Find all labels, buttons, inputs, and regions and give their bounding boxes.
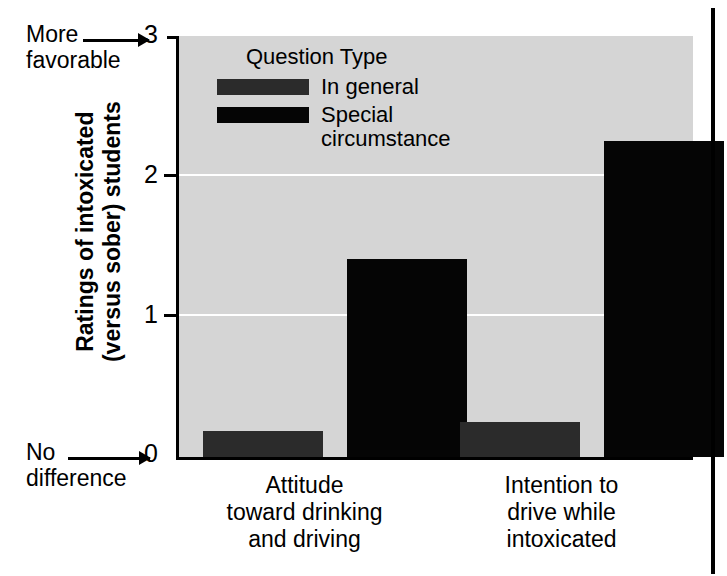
x-category-label-attitude: Attitude toward drinking and driving [176, 472, 433, 553]
y-tick-label-1: 1 [134, 302, 158, 327]
arrow-head [138, 33, 150, 47]
x-category-label-intention: Intention to drive while intoxicated [433, 472, 690, 553]
arrow-right-icon-bottom [68, 446, 150, 469]
y-tick-label-2: 2 [134, 162, 158, 187]
legend-label-special-circumstance: Special circumstance [321, 103, 471, 151]
y-axis-label: Ratings of intoxicated (versus sober) st… [72, 22, 125, 442]
x-axis-line [176, 457, 693, 460]
x-category-attitude-line-2: and driving [176, 526, 433, 553]
bar-attitude-in-general[interactable] [203, 431, 323, 457]
x-category-attitude-line-0: Attitude [176, 472, 433, 499]
legend-item-special-circumstance[interactable]: Special circumstance [217, 103, 477, 151]
legend-swatch-special-circumstance [217, 107, 309, 123]
bar-chart-figure: 3 2 1 0 Question Type In general Special… [0, 0, 727, 576]
legend-label-in-general: In general [321, 75, 419, 99]
x-category-attitude-line-1: toward drinking [176, 499, 433, 526]
x-category-intention-line-1: drive while [433, 499, 690, 526]
bar-intention-in-general[interactable] [460, 422, 580, 457]
x-category-intention-line-2: intoxicated [433, 526, 690, 553]
legend-item-in-general[interactable]: In general [217, 75, 477, 99]
y-tick-2 [164, 174, 178, 177]
y-axis-label-line-1: (versus sober) students [99, 22, 126, 442]
arrow-line [68, 457, 150, 460]
page-edge-rule [711, 8, 715, 574]
bar-intention-special-circumstance[interactable] [604, 141, 724, 457]
y-axis-label-line-0: Ratings of intoxicated [72, 22, 99, 442]
arrow-head [139, 451, 151, 465]
bar-attitude-special-circumstance[interactable] [347, 259, 467, 457]
legend-title: Question Type [246, 45, 477, 68]
y-tick-1 [164, 314, 178, 317]
legend-swatch-in-general [217, 79, 309, 95]
legend: Question Type In general Special circums… [217, 45, 477, 154]
annotation-no-difference-line-1: difference [26, 466, 156, 492]
y-axis-top-cap [167, 36, 179, 39]
x-category-intention-line-0: Intention to [433, 472, 690, 499]
